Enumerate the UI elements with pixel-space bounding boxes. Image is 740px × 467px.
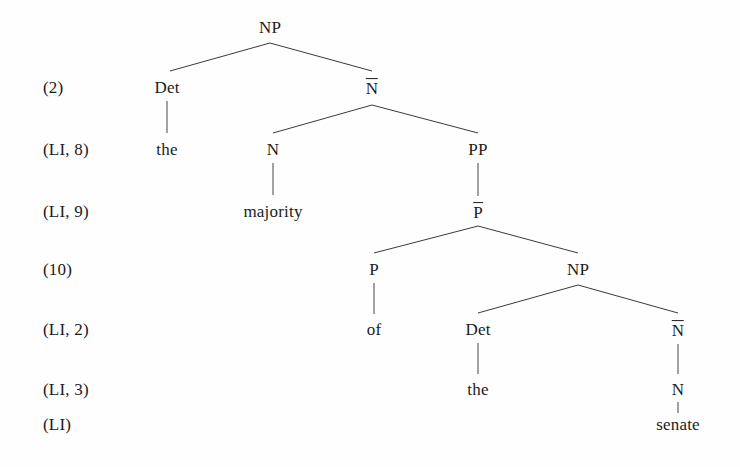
tree-terminal-the-2: the	[467, 380, 488, 400]
tree-edge	[578, 285, 678, 313]
tree-edge	[170, 43, 270, 71]
tree-edge	[374, 226, 478, 253]
tree-edge	[270, 43, 372, 71]
derivation-step-label: (10)	[43, 260, 72, 280]
tree-bar-node-pbar-1: P	[473, 202, 483, 222]
tree-node-np-2: NP	[567, 260, 589, 280]
bar-category-label: N	[672, 322, 684, 340]
tree-edge	[273, 105, 372, 133]
derivation-step-label: (LI, 2)	[43, 320, 89, 340]
derivation-step-label: (LI, 8)	[43, 140, 89, 160]
tree-node-pp-1: PP	[468, 140, 487, 160]
tree-edge	[478, 285, 578, 313]
tree-node-n-1: N	[267, 140, 279, 160]
tree-node-det-1: Det	[154, 78, 179, 98]
syntax-tree-figure: (2)(LI, 8)(LI, 9)(10)(LI, 2)(LI, 3)(LI) …	[0, 0, 740, 467]
tree-node-n-2: N	[672, 380, 684, 400]
bar-category-label: N	[366, 80, 378, 98]
tree-terminal-the-1: the	[156, 140, 177, 160]
bar-category-label: P	[473, 204, 483, 222]
tree-node-p-1: P	[369, 260, 379, 280]
tree-node-np-root: NP	[259, 18, 281, 38]
tree-bar-node-nbar-2: N	[672, 320, 684, 340]
tree-node-det-2: Det	[465, 320, 490, 340]
derivation-step-label: (2)	[43, 78, 63, 98]
tree-edge	[478, 226, 578, 253]
tree-terminal-senate: senate	[656, 415, 700, 435]
derivation-step-label: (LI, 9)	[43, 202, 89, 222]
derivation-step-label: (LI)	[43, 415, 71, 435]
tree-edges-layer	[0, 0, 740, 467]
derivation-step-label: (LI, 3)	[43, 380, 89, 400]
tree-bar-node-nbar-1: N	[366, 78, 378, 98]
tree-edge	[372, 105, 478, 133]
tree-terminal-of-1: of	[367, 320, 382, 340]
tree-terminal-majority: majority	[243, 202, 302, 222]
